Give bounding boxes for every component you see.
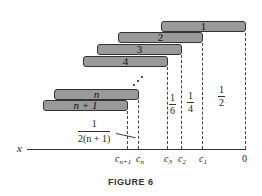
bar-2-label: 2 xyxy=(158,32,164,43)
axis-label-x: x xyxy=(17,142,22,154)
tick-zero: 0 xyxy=(242,153,247,164)
bar-3: 3 xyxy=(97,44,182,55)
bar-1: 1 xyxy=(161,21,246,32)
tick-c-n-plus-1: cn+1 xyxy=(115,153,131,166)
bar-2: 2 xyxy=(118,32,203,43)
dash-line-cn xyxy=(138,100,139,149)
bar-4-label: 4 xyxy=(123,56,129,67)
x-axis xyxy=(27,149,246,150)
gap-label-half: 1 2 xyxy=(218,85,225,108)
dash-line-c3 xyxy=(167,67,168,149)
bar-1-label: 1 xyxy=(201,21,207,32)
figure-caption: FIGURE 6 xyxy=(108,177,154,187)
gap-label-sixth: 1 6 xyxy=(169,93,176,116)
bar-n-plus-1-label: n + 1 xyxy=(74,100,98,111)
ellipsis-dot xyxy=(137,80,139,82)
dash-line-c2 xyxy=(181,55,182,149)
bar-4: 4 xyxy=(83,56,168,67)
dash-line-cn1 xyxy=(127,111,128,149)
ellipsis-dot xyxy=(141,76,143,78)
bar-n-plus-1: n + 1 xyxy=(43,100,128,111)
dash-line-c1 xyxy=(202,43,203,149)
gap-label-n: 1 2(n + 1) xyxy=(78,119,110,144)
gap-label-quarter: 1 4 xyxy=(187,91,194,114)
ellipsis-dot xyxy=(133,84,135,86)
tick-c3: c3 xyxy=(164,153,172,166)
tick-c2: c2 xyxy=(178,153,186,166)
dash-line-0 xyxy=(245,33,246,149)
gap-leader-line xyxy=(116,133,136,138)
tick-c-n: cn xyxy=(136,153,144,166)
bar-3-label: 3 xyxy=(137,44,143,55)
tick-c1: c1 xyxy=(199,153,207,166)
